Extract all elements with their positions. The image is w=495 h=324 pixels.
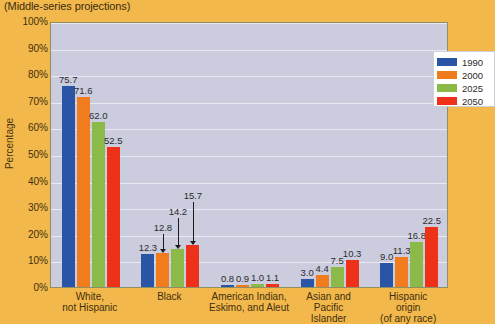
- bar: [156, 253, 169, 287]
- bar-value-label: 15.7: [178, 190, 208, 201]
- y-axis-tick-label: 40%: [0, 176, 48, 187]
- chart-title: (Middle-series projections): [4, 0, 130, 12]
- plot-area: 75.771.662.052.512.30.80.91.01.13.04.47.…: [50, 22, 448, 288]
- bar: [62, 86, 75, 287]
- legend-item-label: 1990: [462, 57, 483, 68]
- bar-value-label: 52.5: [98, 135, 128, 146]
- bar-value-label: 62.0: [83, 110, 113, 121]
- y-axis-tick-label: 60%: [0, 122, 48, 133]
- bar: [346, 260, 359, 287]
- legend-item-label: 2000: [462, 70, 483, 81]
- annotation-arrow-head: [190, 241, 196, 245]
- y-axis-tick-label: 30%: [0, 202, 48, 213]
- x-axis-category-label: Hispanic origin (of any race): [358, 291, 458, 324]
- gridline: [51, 50, 447, 51]
- annotation-arrow-line: [193, 202, 194, 241]
- y-axis-tick-label: 50%: [0, 149, 48, 160]
- bar: [77, 97, 90, 287]
- bar: [266, 284, 279, 287]
- bar-value-label: 71.6: [68, 85, 98, 96]
- bar: [221, 285, 234, 287]
- bar-value-label: 12.8: [148, 222, 178, 233]
- legend: 1990200020252050: [433, 51, 495, 107]
- annotation-arrow-line: [178, 218, 179, 245]
- annotation-arrow-head: [175, 245, 181, 249]
- legend-swatch-icon: [437, 71, 457, 79]
- bar: [425, 227, 438, 287]
- legend-swatch-icon: [437, 84, 457, 92]
- bar-value-label: 22.5: [417, 215, 447, 226]
- bar: [380, 263, 393, 287]
- y-axis-tick-label: 100%: [0, 16, 48, 27]
- legend-item-label: 2050: [462, 96, 483, 107]
- bar-value-label: 14.2: [163, 206, 193, 217]
- y-axis-label: Percentage: [4, 104, 15, 184]
- bar-value-label: 75.7: [53, 74, 83, 85]
- legend-item: 2025: [437, 82, 491, 94]
- y-axis-tick-label: 80%: [0, 69, 48, 80]
- annotation-arrow-head: [160, 249, 166, 253]
- annotation-arrow-line: [163, 234, 164, 249]
- legend-item: 2050: [437, 95, 491, 107]
- gridline: [51, 129, 447, 130]
- y-axis-tick-label: 70%: [0, 96, 48, 107]
- bar: [301, 279, 314, 287]
- bar: [171, 249, 184, 287]
- legend-swatch-icon: [437, 97, 457, 105]
- bar-value-label: 1.1: [258, 272, 288, 283]
- bar: [331, 267, 344, 287]
- bar: [410, 242, 423, 287]
- legend-item: 2000: [437, 69, 491, 81]
- legend-swatch-icon: [437, 58, 457, 66]
- bar: [186, 245, 199, 287]
- gridline: [51, 76, 447, 77]
- legend-item-label: 2025: [462, 83, 483, 94]
- gridline: [51, 103, 447, 104]
- y-axis-tick-label: 90%: [0, 43, 48, 54]
- gridline: [51, 23, 447, 24]
- bar-value-label: 10.3: [337, 248, 367, 259]
- bar: [251, 284, 264, 287]
- bar: [236, 285, 249, 287]
- bar-value-label: 12.3: [133, 242, 163, 253]
- bar: [141, 254, 154, 287]
- bar: [107, 147, 120, 287]
- bar: [92, 122, 105, 287]
- bar: [395, 257, 408, 287]
- y-axis-tick-label: 20%: [0, 229, 48, 240]
- bar: [316, 275, 329, 287]
- y-axis-tick-label: 10%: [0, 255, 48, 266]
- legend-item: 1990: [437, 56, 491, 68]
